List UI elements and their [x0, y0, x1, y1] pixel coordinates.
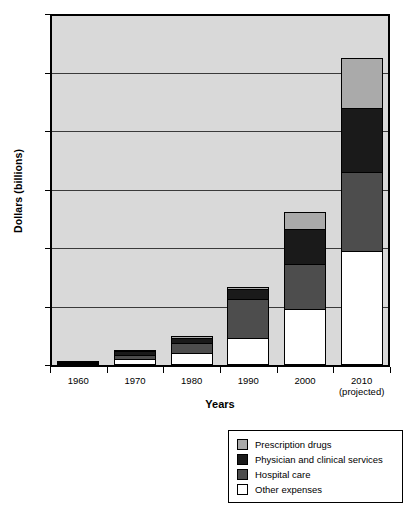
bar-segment: [341, 108, 383, 172]
x-tick-label-text: 2000: [294, 375, 315, 386]
bar-segment: [284, 212, 326, 230]
y-tick-mark: [45, 190, 50, 191]
bar-segment: [341, 251, 383, 364]
legend-swatch: [237, 469, 248, 480]
y-tick-mark: [45, 365, 50, 366]
plot-area: [50, 14, 390, 367]
gridline: [52, 131, 388, 132]
x-tick-mark: [50, 367, 51, 373]
x-tick-label-text: 2010: [351, 375, 372, 386]
legend-label: Hospital care: [255, 469, 310, 480]
bar-segment: [284, 309, 326, 365]
legend-swatch: [237, 454, 248, 465]
x-tick-label-2010: 2010(projected): [322, 375, 402, 397]
legend-swatch: [237, 439, 248, 450]
x-tick-sublabel: (projected): [322, 386, 402, 397]
y-tick-mark: [45, 307, 50, 308]
bar-segment: [114, 359, 156, 365]
y-tick-mark: [45, 248, 50, 249]
x-tick-label-text: 1970: [124, 375, 145, 386]
bar-segment: [171, 353, 213, 365]
x-tick-mark: [163, 367, 164, 373]
legend-label: Physician and clinical services: [255, 454, 383, 465]
bar-segment: [171, 343, 213, 353]
gridline: [52, 307, 388, 308]
bar-1990: [227, 287, 269, 365]
legend-item: Other expenses: [237, 482, 396, 496]
x-tick-mark: [333, 367, 334, 373]
bar-1960: [57, 361, 99, 365]
gridline: [52, 248, 388, 249]
x-tick-label-text: 1960: [68, 375, 89, 386]
x-tick-label-text: 1990: [238, 375, 259, 386]
gridline: [52, 73, 388, 74]
legend-item: Physician and clinical services: [237, 452, 396, 466]
bar-segment: [227, 338, 269, 365]
x-tick-mark: [107, 367, 108, 373]
gridline: [52, 190, 388, 191]
x-tick-mark: [220, 367, 221, 373]
bar-segment: [284, 264, 326, 308]
bar-segment: [341, 58, 383, 107]
legend-label: Prescription drugs: [255, 439, 332, 450]
bar-2000: [284, 212, 326, 365]
bar-1970: [114, 350, 156, 365]
bar-segment: [227, 299, 269, 338]
x-axis-title: Years: [50, 398, 390, 410]
bar-segment: [284, 229, 326, 264]
bar-segment: [227, 289, 269, 300]
legend-item: Prescription drugs: [237, 437, 396, 451]
y-tick-mark: [45, 14, 50, 15]
y-tick-mark: [45, 131, 50, 132]
bar-segment: [57, 364, 99, 366]
y-axis-title: Dollars (billions): [12, 121, 24, 261]
bar-2010: [341, 58, 383, 365]
bar-1980: [171, 336, 213, 365]
legend-swatch: [237, 484, 248, 495]
x-tick-mark: [390, 367, 391, 373]
x-tick-label-text: 1980: [181, 375, 202, 386]
y-tick-mark: [45, 73, 50, 74]
chart-legend: Prescription drugsPhysician and clinical…: [228, 430, 403, 503]
stacked-bar-chart: Dollars (billions) 050010001500200025003…: [0, 0, 410, 511]
bar-segment: [341, 172, 383, 252]
x-tick-mark: [277, 367, 278, 373]
legend-label: Other expenses: [255, 484, 322, 495]
legend-item: Hospital care: [237, 467, 396, 481]
